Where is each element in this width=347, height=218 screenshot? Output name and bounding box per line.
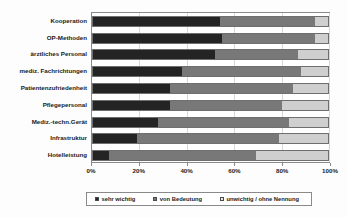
legend-label: unwichtig / ohne Nennung bbox=[227, 196, 299, 202]
legend-item[interactable]: sehr wichtig bbox=[95, 196, 135, 202]
bar-segment[interactable] bbox=[92, 49, 215, 60]
bar-segment[interactable] bbox=[315, 16, 329, 27]
x-axis-tick bbox=[187, 163, 188, 166]
bar-row[interactable] bbox=[92, 83, 329, 94]
x-axis-tick-label: 40% bbox=[180, 167, 192, 174]
bar-segment[interactable] bbox=[92, 117, 158, 128]
x-axis-tick-label: 20% bbox=[133, 167, 145, 174]
bar-segment[interactable] bbox=[279, 133, 329, 144]
category-label: Infrastruktur bbox=[0, 132, 87, 143]
bar-segment[interactable] bbox=[301, 66, 329, 77]
x-axis-tick bbox=[282, 163, 283, 166]
x-axis-tick-label: 60% bbox=[228, 167, 240, 174]
bar-segment[interactable] bbox=[92, 150, 109, 161]
category-label: ärztliches Personal bbox=[0, 48, 87, 59]
bar-row[interactable] bbox=[92, 49, 329, 60]
bar-rows bbox=[92, 13, 329, 162]
x-axis: 0%20%40%60%80%100% bbox=[91, 163, 330, 177]
bar-segment[interactable] bbox=[170, 100, 281, 111]
legend-label: sehr wichtig bbox=[102, 196, 136, 202]
bar-row[interactable] bbox=[92, 133, 329, 144]
x-axis-tick bbox=[91, 163, 92, 166]
bar-row[interactable] bbox=[92, 117, 329, 128]
bar-segment[interactable] bbox=[315, 33, 329, 44]
category-label: OP-Methoden bbox=[0, 32, 87, 43]
bar-segment[interactable] bbox=[92, 133, 137, 144]
bar-segment[interactable] bbox=[92, 16, 220, 27]
category-label: mediz. Fachrichtungen bbox=[0, 65, 87, 76]
bar-segment[interactable] bbox=[137, 133, 279, 144]
bar-segment[interactable] bbox=[92, 83, 170, 94]
plot-area bbox=[91, 12, 330, 163]
x-axis-tick-label: 0% bbox=[87, 167, 96, 174]
x-axis-tick bbox=[234, 163, 235, 166]
bar-segment[interactable] bbox=[282, 100, 329, 111]
x-axis-tick-label: 100% bbox=[322, 167, 338, 174]
bar-segment[interactable] bbox=[158, 117, 288, 128]
legend-item[interactable]: von Bedeutung bbox=[153, 196, 202, 202]
bar-row[interactable] bbox=[92, 66, 329, 77]
legend-swatch-icon bbox=[153, 197, 157, 201]
bar-segment[interactable] bbox=[109, 150, 256, 161]
legend-item[interactable]: unwichtig / ohne Nennung bbox=[220, 196, 299, 202]
bar-segment[interactable] bbox=[256, 150, 329, 161]
bar-segment[interactable] bbox=[293, 83, 329, 94]
bar-row[interactable] bbox=[92, 16, 329, 27]
category-label: Mediz.-techn.Gerät bbox=[0, 116, 87, 127]
legend-swatch-icon bbox=[95, 197, 99, 201]
bar-row[interactable] bbox=[92, 150, 329, 161]
bar-segment[interactable] bbox=[92, 66, 182, 77]
x-axis-tick bbox=[330, 163, 331, 166]
stacked-bar-chart: KooperationOP-Methodenärztliches Persona… bbox=[0, 0, 347, 218]
bar-segment[interactable] bbox=[220, 16, 315, 27]
x-axis-tick-label: 80% bbox=[276, 167, 288, 174]
bar-segment[interactable] bbox=[92, 33, 222, 44]
bar-segment[interactable] bbox=[298, 49, 329, 60]
legend-swatch-icon bbox=[220, 197, 224, 201]
chart-legend: sehr wichtigvon Bedeutungunwichtig / ohn… bbox=[86, 192, 312, 206]
bar-row[interactable] bbox=[92, 100, 329, 111]
bar-row[interactable] bbox=[92, 33, 329, 44]
category-label: Pflegepersonal bbox=[0, 99, 87, 110]
bar-segment[interactable] bbox=[182, 66, 301, 77]
bar-segment[interactable] bbox=[170, 83, 293, 94]
category-label: Patientenzufriedenheit bbox=[0, 82, 87, 93]
bar-segment[interactable] bbox=[289, 117, 329, 128]
category-label: Hotelleistung bbox=[0, 149, 87, 160]
bar-segment[interactable] bbox=[215, 49, 298, 60]
bar-segment[interactable] bbox=[92, 100, 170, 111]
category-label: Kooperation bbox=[0, 15, 87, 26]
gridline bbox=[329, 13, 330, 162]
bar-segment[interactable] bbox=[222, 33, 314, 44]
legend-label: von Bedeutung bbox=[160, 196, 202, 202]
x-axis-tick bbox=[139, 163, 140, 166]
